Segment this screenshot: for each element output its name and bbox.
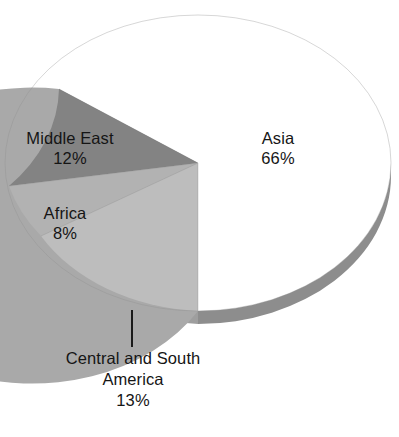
pie-side-wall-asia	[198, 163, 391, 324]
pie-label-middle-east-percent: 12%	[8, 148, 132, 168]
pie-label-asia-percent: 66%	[232, 148, 324, 168]
pie-label-asia: Asia 66%	[232, 128, 324, 168]
pie-label-africa-name: Africa	[22, 203, 108, 223]
pie-label-central-south-america-name-line1: Central and South	[28, 348, 238, 369]
pie-label-central-south-america-name-line2: America	[28, 369, 238, 390]
pie-label-central-south-america-percent: 13%	[28, 390, 238, 411]
pie-label-africa: Africa 8%	[22, 203, 108, 243]
pie-label-central-south-america: Central and South America 13%	[28, 348, 238, 411]
pie-label-asia-name: Asia	[232, 128, 324, 148]
pie-label-middle-east: Middle East 12%	[8, 128, 132, 168]
pie-label-middle-east-name: Middle East	[8, 128, 132, 148]
pie-chart: Asia 66% Middle East 12% Africa 8% Centr…	[0, 0, 399, 437]
pie-label-africa-percent: 8%	[22, 223, 108, 243]
